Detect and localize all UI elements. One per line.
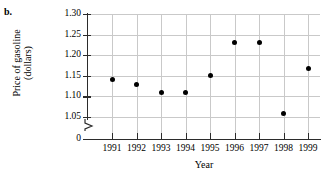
data-point	[257, 40, 262, 45]
gridline-vertical	[137, 14, 138, 140]
x-axis-title: Year	[88, 159, 320, 170]
gridline-vertical	[284, 14, 285, 140]
x-axis-tick	[210, 133, 211, 140]
data-point	[159, 90, 164, 95]
y-axis-title-line2: (dollars)	[22, 8, 33, 118]
x-axis-tick	[308, 133, 309, 140]
x-axis-tick	[284, 133, 285, 140]
y-axis-line	[87, 13, 88, 120]
x-axis-tick	[161, 133, 162, 140]
x-axis-tick	[186, 133, 187, 140]
y-axis-tick-label: 1.20	[52, 49, 81, 59]
y-axis-title-line1: Price of gasoline	[11, 8, 22, 118]
y-axis-tick-label: 1.25	[52, 29, 81, 39]
y-axis-tick-label: 1.30	[52, 8, 81, 18]
x-axis-line	[87, 139, 321, 140]
gridline-vertical	[259, 14, 260, 140]
figure-scatter-gasoline-price: b. Year Price of gasoline (dollars) 1.30…	[0, 0, 329, 179]
y-axis-tick	[83, 55, 91, 56]
y-axis-tick	[83, 14, 91, 15]
y-axis-tick-label: 0	[52, 133, 81, 143]
y-axis-tick-label: 1.15	[52, 70, 81, 80]
gridline-vertical	[308, 14, 309, 140]
gridline-horizontal	[88, 117, 320, 118]
gridline-horizontal	[88, 14, 320, 15]
y-axis-tick	[83, 76, 91, 77]
y-axis-tick	[83, 117, 91, 118]
gridline-horizontal	[88, 35, 320, 36]
x-axis-tick-label: 1999	[294, 143, 322, 153]
x-axis-tick	[112, 133, 113, 140]
y-axis-break-icon	[82, 118, 96, 132]
plot-area	[88, 14, 320, 140]
data-point	[208, 73, 213, 78]
gridline-horizontal	[88, 55, 320, 56]
y-axis-tick	[83, 139, 91, 140]
y-axis-tick	[83, 96, 91, 97]
data-point	[306, 66, 311, 71]
data-point	[110, 77, 115, 82]
gridline-vertical	[235, 14, 236, 140]
gridline-vertical	[186, 14, 187, 140]
gridline-horizontal	[88, 76, 320, 77]
gridline-vertical	[161, 14, 162, 140]
data-point	[134, 82, 139, 87]
gridline-horizontal	[88, 96, 320, 97]
x-axis-tick	[137, 133, 138, 140]
y-axis-tick-label: 1.10	[52, 90, 81, 100]
y-axis-title: Price of gasoline (dollars)	[11, 8, 33, 118]
y-axis-tick	[83, 35, 91, 36]
data-point	[183, 90, 188, 95]
x-axis-tick	[235, 133, 236, 140]
x-axis-tick	[259, 133, 260, 140]
y-axis-tick-label: 1.05	[52, 111, 81, 121]
